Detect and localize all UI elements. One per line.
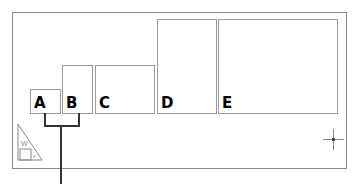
svg-text:x: x (33, 153, 36, 159)
box-d-label: D (161, 96, 173, 111)
box-e-label: E (222, 96, 232, 111)
svg-text:W: W (21, 140, 28, 147)
box-a-label: A (34, 96, 46, 111)
box-e: E (218, 19, 338, 114)
box-c-label: C (99, 96, 110, 111)
triangle-ruler-icon: W x (16, 122, 44, 162)
box-d: D (157, 19, 217, 114)
box-c: C (95, 65, 155, 114)
box-b: B (62, 65, 93, 114)
box-b-label: B (66, 96, 77, 111)
box-a: A (30, 89, 61, 114)
